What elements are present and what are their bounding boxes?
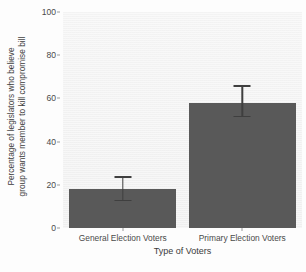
x-tick-label: Primary Election Voters <box>199 233 286 243</box>
x-axis-ticks: General Election VotersPrimary Election … <box>63 232 302 246</box>
plot-area <box>63 12 302 228</box>
y-axis-title-line-1: Percentage of legislators who believe <box>7 36 18 196</box>
error-bar-cap-bottom <box>114 200 131 201</box>
y-tick-label: 100 <box>42 7 56 17</box>
chart-figure: Percentage of legislators who believe gr… <box>0 0 306 272</box>
y-tick-mark <box>57 55 60 56</box>
error-bar-cap-top <box>114 176 131 177</box>
y-tick-label: 80 <box>46 50 56 60</box>
y-tick-mark <box>57 98 60 99</box>
y-axis-ticks: 020406080100 <box>34 0 60 272</box>
y-tick-mark <box>57 12 60 13</box>
y-tick-label: 60 <box>46 93 56 103</box>
x-tick-mark <box>122 228 123 231</box>
y-tick-label: 20 <box>46 180 56 190</box>
bar <box>189 103 296 228</box>
y-tick-mark <box>57 184 60 185</box>
error-bar-line <box>122 176 123 200</box>
x-axis-title: Type of Voters <box>63 246 302 256</box>
y-axis-title-line-2: group wants member to kill compromise bi… <box>17 36 28 196</box>
y-tick-label: 40 <box>46 137 56 147</box>
error-bar-cap-bottom <box>234 116 251 117</box>
x-tick-label: General Election Voters <box>79 233 167 243</box>
y-tick-label: 0 <box>51 223 56 233</box>
y-axis-title: Percentage of legislators who believe gr… <box>0 0 34 232</box>
error-bar-line <box>242 85 243 115</box>
y-tick-mark <box>57 228 60 229</box>
y-tick-mark <box>57 141 60 142</box>
x-tick-mark <box>242 228 243 231</box>
error-bar-cap-top <box>234 85 251 86</box>
